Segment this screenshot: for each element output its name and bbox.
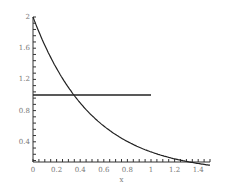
y-tick-label: 1.6 xyxy=(19,44,31,52)
x-tick-label: 0.4 xyxy=(75,166,87,174)
y-tick-label: 2 xyxy=(26,13,30,21)
x-tick-label: 1 xyxy=(149,166,153,174)
y-tick-label: 0.4 xyxy=(19,138,31,146)
x-axis-label: x xyxy=(120,176,124,184)
x-tick-label: 1.2 xyxy=(169,166,180,174)
x-tick-label: 0.8 xyxy=(122,166,133,174)
exponential-curve xyxy=(33,17,210,165)
y-tick-label: 1.2 xyxy=(19,75,30,83)
x-tick-label: 0.2 xyxy=(51,166,62,174)
chart: 00.20.40.60.811.21.421.61.20.80.4x xyxy=(0,0,225,193)
x-tick-label: 0.6 xyxy=(98,166,110,174)
x-tick-label: 1.4 xyxy=(193,166,205,174)
x-tick-label: 0 xyxy=(31,166,35,174)
y-tick-label: 0.8 xyxy=(19,107,30,115)
